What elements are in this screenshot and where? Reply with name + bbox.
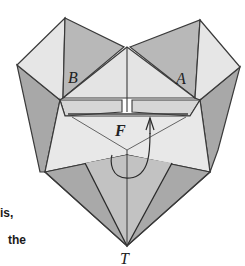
label-f: F xyxy=(114,122,126,139)
label-a: A xyxy=(175,70,186,87)
label-t: T xyxy=(120,250,130,266)
caption-fragment-1: is, xyxy=(0,206,13,220)
origami-diagram: B A F T xyxy=(0,0,245,266)
caption-fragment-2: the xyxy=(8,233,26,247)
label-b: B xyxy=(68,69,78,86)
